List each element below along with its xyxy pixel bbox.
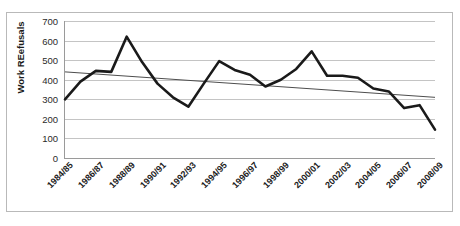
y-axis-tick-label: 400 — [26, 74, 58, 85]
y-axis-tick-label: 300 — [26, 94, 58, 105]
y-axis-tick-label: 500 — [26, 55, 58, 66]
y-axis-tick-label: 200 — [26, 113, 58, 124]
y-axis-tick-label: 100 — [26, 133, 58, 144]
x-axis-tick-labels: 1984/851986/871988/891990/911992/931994/… — [64, 160, 434, 222]
y-axis-tick-label: 600 — [26, 35, 58, 46]
plot-area — [64, 21, 435, 159]
series-line-chart — [65, 21, 435, 158]
y-axis-tick-label: 700 — [26, 16, 58, 27]
y-axis-tick-labels: 7006005004003002001000 — [26, 21, 58, 158]
work-refusals-line — [65, 37, 435, 130]
y-axis-title: Work REefusals — [15, 0, 26, 118]
y-axis-tick-label: 0 — [26, 153, 58, 164]
chart-figure: Work REefusals 7006005004003002001000 19… — [0, 0, 460, 226]
